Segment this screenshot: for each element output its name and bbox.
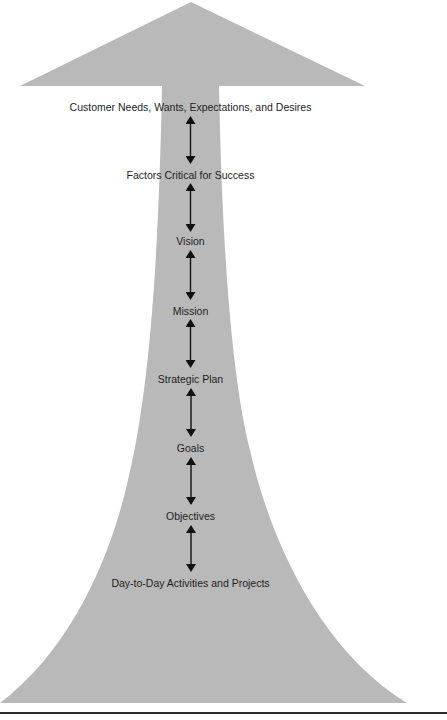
level-label-mission: Mission — [0, 305, 381, 317]
level-label-objectives: Objectives — [0, 510, 381, 522]
level-label-goals: Goals — [0, 442, 381, 454]
level-label-strategic-plan: Strategic Plan — [0, 373, 381, 385]
bottom-divider — [0, 712, 447, 714]
connector-arrows — [191, 120, 192, 568]
level-label-critical-success-factors: Factors Critical for Success — [0, 169, 381, 181]
level-label-day-to-day: Day-to-Day Activities and Projects — [0, 577, 381, 589]
level-label-customer-needs: Customer Needs, Wants, Expectations, and… — [0, 101, 381, 113]
level-label-vision: Vision — [0, 235, 381, 247]
